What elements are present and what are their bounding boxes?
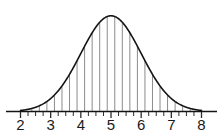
x-axis-tick-label: 2	[16, 116, 24, 133]
x-axis-tick-label: 5	[107, 116, 115, 133]
chart-canvas: 2345678	[0, 0, 223, 137]
bell-curve-chart: 2345678	[0, 0, 223, 137]
x-axis-tick-label: 3	[46, 116, 54, 133]
x-axis-tick-label: 6	[137, 116, 145, 133]
x-axis-tick-label: 8	[197, 116, 205, 133]
x-axis-tick-label: 4	[77, 116, 85, 133]
x-axis-tick-label: 7	[167, 116, 175, 133]
